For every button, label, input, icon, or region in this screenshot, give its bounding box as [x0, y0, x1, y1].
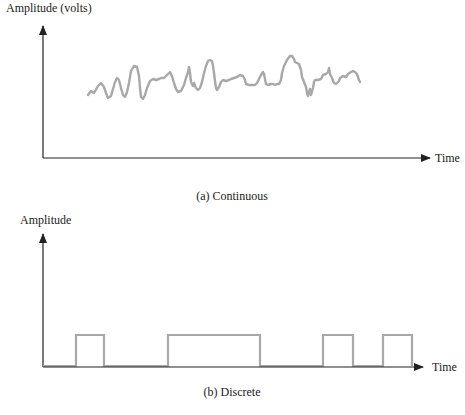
caption-b: (b) Discrete [204, 385, 261, 399]
discrete-pulse-train [43, 335, 412, 366]
continuous-panel: Amplitude (volts) Time (a) Continuous [6, 1, 460, 203]
x-axis-label-b: Time [432, 360, 457, 374]
y-axis-label-b: Amplitude [20, 213, 71, 227]
y-axis-label-a: Amplitude (volts) [6, 1, 92, 15]
x-axis-label-a: Time [435, 151, 460, 165]
waveform-trace [88, 56, 360, 99]
signal-figure: Amplitude (volts) Time (a) Continuous Am… [0, 0, 465, 415]
discrete-panel: Amplitude Time (b) Discrete [20, 213, 457, 399]
caption-a: (a) Continuous [196, 189, 268, 203]
